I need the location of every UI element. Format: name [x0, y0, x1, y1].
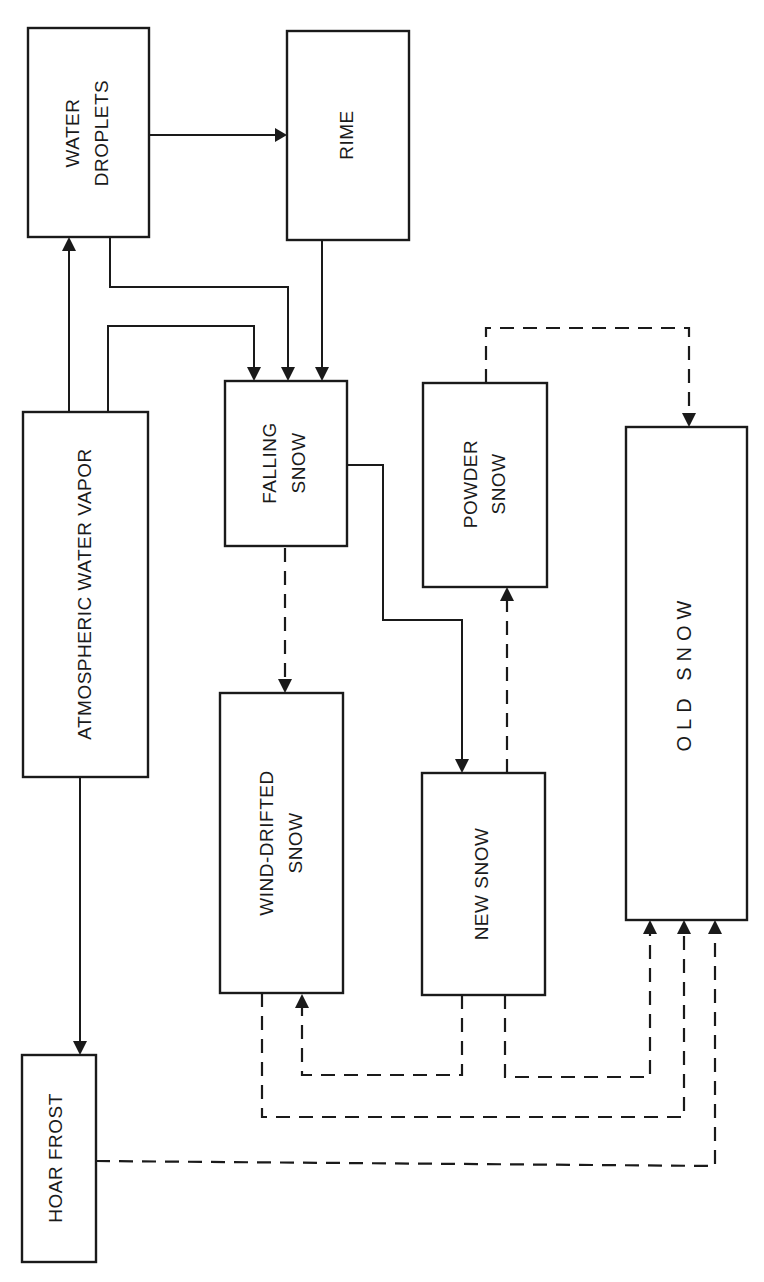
- arrowhead-icon: [643, 920, 657, 934]
- arrowhead-icon: [500, 587, 514, 601]
- node-rime: RIME: [287, 31, 409, 240]
- node-old-snow: OLD SNOW: [626, 427, 747, 920]
- arrowhead-icon: [247, 367, 261, 381]
- arrowhead-icon: [682, 413, 696, 427]
- node-label: POWDER: [460, 440, 481, 529]
- arrowhead-icon: [708, 920, 722, 934]
- arrowhead-icon: [73, 1041, 87, 1055]
- arrowhead-icon: [281, 367, 295, 381]
- arrowhead-icon: [295, 994, 309, 1008]
- edge-droplets-to-falling: [110, 237, 288, 374]
- node-wind-drifted-snow: WIND-DRIFTED SNOW: [220, 693, 343, 993]
- node-label: DROPLETS: [91, 80, 112, 186]
- node-label: SNOW: [285, 812, 306, 873]
- node-label: WATER: [62, 99, 83, 168]
- arrowhead-icon: [315, 367, 329, 381]
- node-hoar-frost: HOAR FROST: [22, 1055, 96, 1262]
- node-falling-snow: FALLING SNOW: [225, 381, 347, 546]
- node-label: FALLING: [259, 422, 280, 504]
- node-label: SNOW: [488, 453, 509, 514]
- node-label: OLD SNOW: [673, 595, 695, 752]
- node-label: RIME: [336, 110, 357, 160]
- edge-hoar-to-old: [96, 927, 715, 1166]
- arrowhead-icon: [278, 679, 292, 693]
- node-label: WIND-DRIFTED: [256, 770, 277, 915]
- arrowhead-icon: [677, 920, 691, 934]
- arrowhead-icon: [62, 237, 76, 251]
- node-label: HOAR FROST: [45, 1093, 66, 1223]
- node-water-droplets: WATER DROPLETS: [28, 28, 149, 237]
- node-label: NEW SNOW: [471, 828, 492, 941]
- node-new-snow: NEW SNOW: [422, 773, 545, 995]
- edge-new-to-winddrifted: [302, 995, 462, 1075]
- node-label: SNOW: [288, 432, 309, 493]
- arrowhead-icon: [455, 759, 469, 773]
- arrowhead-icon: [275, 128, 287, 142]
- node-powder-snow: POWDER SNOW: [423, 383, 547, 587]
- snow-flow-diagram: WATER DROPLETS RIME ATMOSPHERIC WATER VA…: [0, 0, 764, 1282]
- node-label: ATMOSPHERIC WATER VAPOR: [74, 448, 95, 740]
- node-atmospheric-water-vapor: ATMOSPHERIC WATER VAPOR: [23, 412, 148, 777]
